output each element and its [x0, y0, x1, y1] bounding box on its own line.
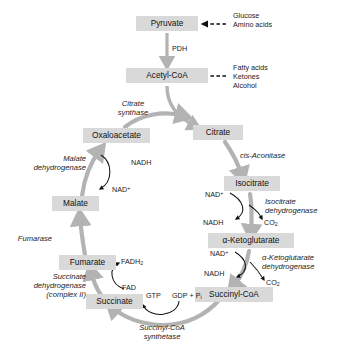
enzyme-icdh-line1: Isocitrate — [265, 197, 296, 206]
cofactor-sdh-fadh-sub: 2 — [140, 260, 143, 266]
enzyme-mdh-line1: Malate — [63, 154, 86, 163]
cofactor-scs-pi-sub: i — [200, 294, 201, 300]
enzyme-scs-line1: Succinyl-CoA — [139, 323, 185, 332]
cofactor-akgdh-co2-text: CO — [266, 278, 277, 287]
metabolite-malate[interactable]: Malate — [52, 196, 99, 211]
cofactor-akgdh-co2-sub: 2 — [277, 281, 280, 287]
metabolite-alpha-ketoglutarate[interactable]: α-Ketoglutarate — [208, 233, 294, 248]
enzyme-isocitrate-dehydrogenase: Isocitrate dehydrogenase — [265, 197, 317, 215]
cofactor-akgdh-nadh: NADH — [204, 270, 224, 278]
enzyme-fumarase: Fumarase — [0, 234, 52, 243]
cofactor-mdh-nad-charge: + — [127, 185, 130, 191]
cofactor-loop-mdh — [100, 155, 110, 189]
cofactor-icdh-nad-plus: NAD+ — [205, 190, 223, 200]
cofactor-icdh-co2-sub: 2 — [275, 221, 278, 227]
enzyme-citrate-synthase-line2: synthase — [118, 108, 148, 117]
enzyme-sdh-line3: (complex II) — [46, 290, 86, 299]
enzyme-cis-aconitase: cis-Aconitase — [240, 151, 285, 160]
cofactor-sdh-fadh-text: FADH — [121, 257, 140, 266]
cofactor-akgdh-nad-plus: NAD+ — [210, 249, 228, 259]
cofactor-loop-icdh — [230, 193, 262, 219]
enzyme-akgdh-line1: α-Ketoglutarate — [262, 253, 314, 262]
cofactor-icdh-nadh: NADH — [203, 219, 223, 227]
arrow-acetylcoa-to-citrate — [167, 86, 195, 126]
cofactor-scs-gtp: GTP — [146, 292, 161, 300]
enzyme-malate-dehydrogenase: Malate dehydrogenase — [0, 154, 86, 172]
cofactor-sdh-fadh2: FADH2 — [121, 258, 143, 266]
enzyme-sdh-line1: Succinate — [53, 272, 86, 281]
cofactor-icdh-nad-charge: + — [220, 190, 223, 196]
metabolite-succinyl-coa[interactable]: Succinyl-CoA — [195, 287, 273, 302]
cofactor-scs-gdp-text: GDP + P — [172, 291, 200, 300]
enzyme-icdh-line2: dehydrogenase — [265, 206, 317, 215]
cofactor-loop-scs — [143, 301, 179, 314]
enzyme-pdh: PDH — [172, 45, 187, 53]
metabolite-succinate[interactable]: Succinate — [86, 294, 143, 309]
enzyme-succinate-dehydrogenase: Succinate dehydrogenase (complex II) — [0, 272, 86, 299]
cofactor-icdh-co2-text: CO — [264, 218, 275, 227]
cofactor-akgdh-nad-text: NAD — [210, 249, 225, 258]
metabolite-isocitrate[interactable]: Isocitrate — [224, 176, 280, 191]
cofactor-scs-gdp-pi: GDP + Pi — [172, 292, 202, 300]
enzyme-citrate-synthase: Citrate synthase — [103, 99, 163, 117]
cofactor-mdh-nad-plus: NAD+ — [112, 185, 130, 195]
cofactor-mdh-nad-text: NAD — [112, 185, 127, 194]
metabolite-oxaloacetate[interactable]: Oxaloacetate — [83, 128, 150, 143]
cofactor-icdh-co2: CO2 — [264, 219, 278, 227]
enzyme-mdh-line2: dehydrogenase — [34, 163, 86, 172]
metabolite-acetyl-coa[interactable]: Acetyl-CoA — [126, 68, 208, 83]
enzyme-sdh-line2: dehydrogenase — [34, 281, 86, 290]
cofactor-akgdh-nad-charge: + — [225, 249, 228, 255]
enzyme-alpha-kg-dehydrogenase: α-Ketoglutarate dehydrogenase — [262, 253, 314, 271]
input-amino-acids: Amino acids — [233, 21, 272, 29]
enzyme-succinyl-coa-synthetase: Succinyl-CoA synthetase — [121, 323, 203, 341]
enzyme-citrate-synthase-line1: Citrate — [122, 99, 144, 108]
metabolite-fumarate[interactable]: Fumarate — [59, 255, 116, 270]
tca-cycle-diagram — [0, 0, 342, 362]
cofactor-akgdh-co2: CO2 — [266, 279, 280, 287]
enzyme-akgdh-line2: dehydrogenase — [262, 262, 314, 271]
cofactor-icdh-nad-text: NAD — [205, 190, 220, 199]
metabolite-citrate[interactable]: Citrate — [193, 125, 243, 140]
metabolite-pyruvate[interactable]: Pyruvate — [136, 16, 198, 31]
cofactor-sdh-fad: FAD — [122, 284, 136, 292]
cofactor-mdh-nadh: NADH — [131, 159, 151, 167]
input-alcohol: Alcohol — [233, 82, 257, 90]
enzyme-scs-line2: synthetase — [144, 332, 181, 341]
